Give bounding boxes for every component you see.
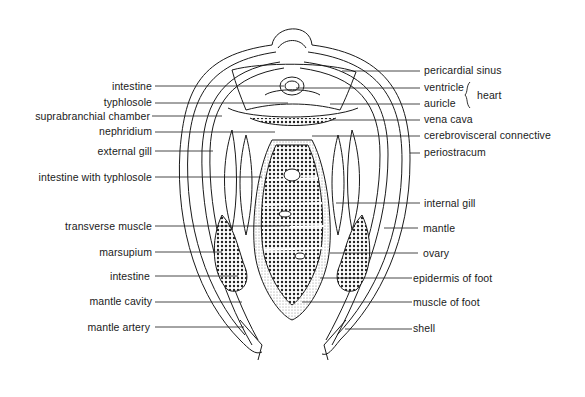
label-transverse-muscle: transverse muscle [65,220,152,232]
label-ovary: ovary [423,247,449,259]
label-typhlosole: typhlosole [104,96,152,108]
label-mantle-artery: mantle artery [87,321,150,333]
label-muscle-of-foot: muscle of foot [413,296,480,308]
label-external-gill: external gill [98,145,152,157]
label-intestine-upper: intestine [112,80,152,92]
label-periostracum: periostracum [424,146,486,158]
label-epidermis-of-foot: epidermis of foot [413,272,492,284]
label-mantle-cavity: mantle cavity [89,295,152,307]
label-intestine-lower: intestine [110,270,150,282]
label-pericardial-sinus: pericardial sinus [424,64,502,76]
label-nephridium: nephridium [99,125,152,137]
brace-icon [465,82,470,108]
label-intestine-with-typhlosole: intestine with typhlosole [39,171,152,183]
label-mantle: mantle [423,222,455,234]
label-shell: shell [413,322,435,334]
label-heart-group: heart [477,89,501,101]
mussel-cross-section-drawing [0,0,585,397]
label-marsupium: marsupium [99,246,152,258]
label-suprabranchial-chamber: suprabranchial chamber [35,110,150,122]
label-internal-gill: internal gill [424,197,476,209]
label-vena-cava: vena cava [424,113,473,125]
label-auricle: auricle [424,97,456,109]
diagram-canvas: intestine typhlosole suprabranchial cham… [0,0,585,397]
label-ventricle: ventricle [424,81,464,93]
label-cerebrovisceral-connective: cerebrovisceral connective [424,129,551,141]
